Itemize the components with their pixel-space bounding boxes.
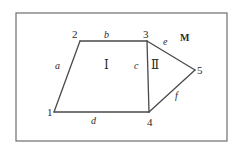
vertex-label-1: 1 bbox=[47, 106, 53, 118]
vertex-label-2: 2 bbox=[72, 28, 78, 40]
diagram-canvas: abcdef 12345 ⅠⅡ M bbox=[0, 0, 243, 152]
edge-f bbox=[149, 70, 195, 112]
vertex-label-5: 5 bbox=[197, 64, 203, 76]
edge-label-b: b bbox=[104, 29, 109, 40]
edge-label-e: e bbox=[163, 36, 168, 47]
outer-region-label-m: M bbox=[180, 32, 190, 43]
edge-c bbox=[147, 41, 149, 112]
edge-a bbox=[54, 41, 80, 112]
vertex-label-3: 3 bbox=[143, 28, 149, 40]
edges-layer bbox=[54, 41, 195, 112]
face-labels-layer: ⅠⅡ bbox=[104, 58, 159, 72]
edge-label-f: f bbox=[175, 90, 179, 101]
edge-label-a: a bbox=[55, 60, 60, 71]
face-label-i: Ⅰ bbox=[104, 58, 109, 72]
diagram-frame bbox=[16, 13, 227, 141]
planar-graph-diagram: abcdef 12345 ⅠⅡ M bbox=[0, 0, 243, 152]
edge-label-d: d bbox=[91, 115, 97, 126]
edge-label-c: c bbox=[134, 60, 139, 71]
vertex-labels-layer: 12345 bbox=[47, 28, 203, 128]
vertex-label-4: 4 bbox=[147, 116, 153, 128]
face-label-ii: Ⅱ bbox=[151, 58, 159, 72]
